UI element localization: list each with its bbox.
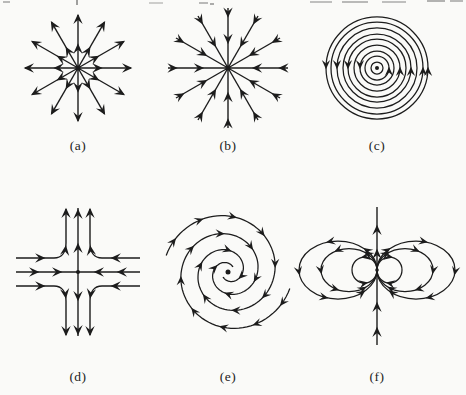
flow-arrowhead <box>196 76 210 89</box>
phase-portraits-figure: (a) (b) (c) (d) (e) (f) <box>0 0 466 395</box>
flow-arrowhead <box>62 44 75 58</box>
flow-arrowhead <box>344 60 352 69</box>
flow-arrowhead <box>277 296 289 308</box>
flow-arrowhead <box>114 86 128 99</box>
flow-arrowhead <box>413 283 424 294</box>
flow-arrowhead <box>194 260 206 272</box>
flow-line <box>90 286 140 335</box>
flow-arrowhead <box>207 36 220 50</box>
caption-f: (f) <box>370 369 385 384</box>
panel-dipole-field <box>294 207 460 345</box>
caption-b: (b) <box>219 138 236 153</box>
flow-line <box>352 257 377 283</box>
flow-arrowhead <box>249 109 262 123</box>
panel-saddle-field <box>16 208 140 337</box>
cropped-text-fragment <box>199 2 208 4</box>
flow-arrowhead <box>173 34 187 47</box>
flow-arrowhead <box>428 264 438 275</box>
flow-arrowhead <box>29 86 43 99</box>
panel-source-field <box>24 14 133 123</box>
flow-arrowhead <box>396 67 404 76</box>
flow-arrowhead <box>194 109 207 123</box>
flow-arrowhead <box>236 86 249 100</box>
flow-arrowhead <box>47 19 60 33</box>
equilibrium-dot <box>76 66 81 71</box>
cropped-text-fragment <box>427 0 445 2</box>
flow-arrowhead <box>81 44 94 58</box>
cropped-text-fragment <box>342 1 368 3</box>
flow-arrowhead <box>410 244 422 255</box>
flow-line <box>90 209 140 258</box>
equilibrium-dot <box>375 66 379 70</box>
cropped-text-fragment <box>382 1 406 3</box>
flow-arrowhead <box>193 215 204 226</box>
flow-arrowhead <box>173 89 187 102</box>
flow-line <box>16 209 66 258</box>
equilibrium-dot <box>375 268 379 272</box>
panel-spiral-field <box>166 211 290 332</box>
caption-a: (a) <box>70 138 86 153</box>
flow-arrowhead <box>249 13 262 27</box>
flow-arrowhead <box>47 104 60 118</box>
caption-e: (e) <box>220 369 236 384</box>
cropped-text-artifacts <box>3 0 463 5</box>
flow-line <box>16 286 66 335</box>
flow-arrowhead <box>250 272 262 284</box>
flow-arrowhead <box>319 292 330 302</box>
flow-line <box>377 257 402 283</box>
cropped-text-fragment <box>210 3 214 5</box>
flow-arrowhead <box>96 104 109 118</box>
cropped-text-fragment <box>149 2 163 4</box>
flow-arrowhead <box>333 244 345 255</box>
flow-arrowhead <box>88 52 102 65</box>
flow-arrowhead <box>407 67 415 76</box>
caption-c: (c) <box>369 138 385 153</box>
flow-arrowhead <box>329 283 340 294</box>
equilibrium-dot <box>226 66 231 71</box>
flow-arrowhead <box>385 67 393 76</box>
cropped-text-fragment <box>76 0 78 5</box>
flow-arrowhead <box>236 36 249 50</box>
flow-arrowhead <box>269 89 283 102</box>
cropped-text-fragment <box>310 1 332 3</box>
flow-arrowhead <box>29 37 43 50</box>
flow-arrowhead <box>167 236 179 248</box>
flow-arrowhead <box>54 52 68 65</box>
flow-arrowhead <box>251 318 262 329</box>
flow-arrowhead <box>114 37 128 50</box>
panel-sink-field <box>167 7 288 128</box>
flow-arrowhead <box>356 60 364 69</box>
flow-arrowhead <box>54 71 68 84</box>
flow-arrowhead <box>196 47 210 60</box>
flow-arrowhead <box>207 86 220 100</box>
flow-arrowhead <box>269 34 283 47</box>
equilibrium-dot <box>226 270 231 275</box>
flow-arrowhead <box>88 71 102 84</box>
flow-arrowhead <box>194 13 207 27</box>
panel-center-field <box>322 17 432 119</box>
flow-arrowhead <box>246 76 260 89</box>
cropped-text-fragment <box>3 1 10 3</box>
flow-arrowhead <box>81 78 94 92</box>
cropped-text-fragment <box>450 0 463 2</box>
equilibrium-dot <box>76 270 80 274</box>
flow-arrowhead <box>425 292 436 302</box>
textbook-figure-page: (a) (b) (c) (d) (e) (f) <box>0 0 466 395</box>
caption-d: (d) <box>69 369 86 384</box>
flow-arrowhead <box>62 78 75 92</box>
flow-arrowhead <box>96 19 109 33</box>
panel-captions: (a) (b) (c) (d) (e) (f) <box>69 138 385 384</box>
flow-arrowhead <box>246 47 260 60</box>
flow-arrowhead <box>316 264 326 275</box>
